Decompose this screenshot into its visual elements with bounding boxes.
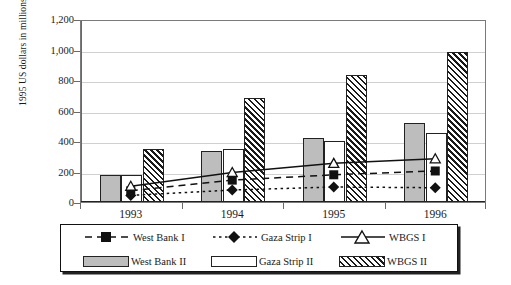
- legend-item-wbgs-ii[interactable]: WBGS II: [339, 249, 427, 273]
- legend-label: WBGS II: [387, 256, 427, 267]
- legend-label: West Bank II: [131, 256, 186, 267]
- legend-row-lines: West Bank I Gaza Strip I: [61, 225, 457, 249]
- legend-label: West Bank I: [133, 232, 185, 243]
- white-bar-swatch-icon: [211, 256, 257, 267]
- dotted-line-filled-diamond-marker-icon: [211, 229, 259, 245]
- x-axis-tick-labels: 1993199419951996: [80, 208, 486, 224]
- line-path: [131, 187, 436, 195]
- x-axis-tick-label: 1994: [197, 208, 267, 220]
- data-point-marker: [329, 170, 338, 179]
- gray-bar-swatch-icon: [83, 256, 129, 267]
- data-point-marker: [431, 166, 440, 175]
- chart-root: 1995 US dollars in millions 020040060080…: [0, 0, 511, 285]
- data-point-marker: [227, 185, 238, 196]
- data-point-marker: [328, 181, 339, 192]
- legend-item-west-bank-ii[interactable]: West Bank II: [83, 249, 186, 273]
- legend-item-wbgs-i[interactable]: WBGS I: [339, 225, 425, 249]
- line-path: [131, 159, 436, 186]
- legend-item-gaza-strip-ii[interactable]: Gaza Strip II: [211, 249, 313, 273]
- x-axis-tick-label: 1995: [299, 208, 369, 220]
- legend-label: Gaza Strip II: [259, 256, 313, 267]
- x-axis-tick-label: 1993: [96, 208, 166, 220]
- solid-line-open-triangle-marker-icon: [339, 229, 387, 245]
- hatched-bar-swatch-icon: [339, 256, 385, 267]
- data-point-marker: [430, 182, 441, 193]
- chart-legend: West Bank I Gaza Strip I: [60, 224, 458, 272]
- x-axis-tick-label: 1996: [400, 208, 470, 220]
- legend-item-west-bank-i[interactable]: West Bank I: [83, 225, 185, 249]
- legend-item-gaza-strip-i[interactable]: Gaza Strip I: [211, 225, 312, 249]
- dashed-line-filled-square-marker-icon: [83, 229, 131, 245]
- legend-label: Gaza Strip I: [261, 232, 312, 243]
- legend-row-bars: West Bank II Gaza Strip II WBGS II: [61, 249, 457, 273]
- legend-label: WBGS I: [389, 232, 425, 243]
